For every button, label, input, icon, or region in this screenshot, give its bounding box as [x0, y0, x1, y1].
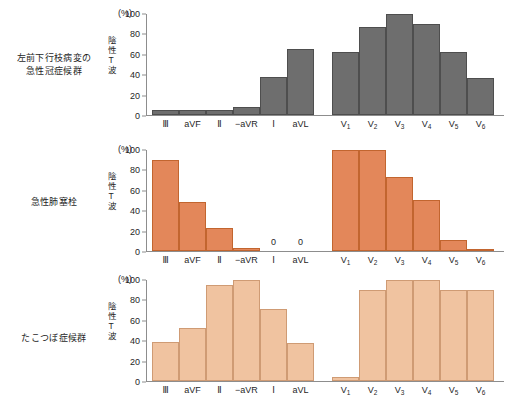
lead-label-main: V: [449, 255, 455, 265]
bar-slot: aVF: [179, 150, 206, 251]
bar-slot: V4: [413, 14, 440, 115]
bar: [152, 342, 179, 381]
lead-label-main: V: [395, 255, 401, 265]
lead-label-sub: 4: [428, 259, 432, 266]
bar-slot: V1: [332, 280, 359, 381]
bar-slot: V3: [386, 280, 413, 381]
lead-label-main: V: [422, 385, 428, 395]
lead-label-sub: 2: [374, 259, 378, 266]
bar-slot: V5: [440, 280, 467, 381]
bar-slot: Ⅰ: [260, 280, 287, 381]
lead-label-main: Ⅱ: [217, 255, 221, 265]
bar: [206, 285, 233, 381]
bar: [233, 248, 260, 251]
bar-slot: Ⅰ: [260, 14, 287, 115]
bar: [359, 290, 386, 381]
lead-label-sub: 6: [482, 259, 486, 266]
bar-value-label: 0: [260, 237, 287, 247]
lead-label-main: Ⅰ: [272, 385, 275, 395]
lead-label-sub: 2: [374, 123, 378, 130]
plot-area: 020406080100ⅢaVFⅡ−aVRⅠaVLV1V2V3V4V5V6: [146, 280, 498, 382]
chart-title-line: 左前下行枝病変の: [6, 52, 102, 65]
y-axis-tick-label: 80: [130, 295, 146, 305]
bar-slot: aVF: [179, 14, 206, 115]
lead-label-sub: 3: [401, 259, 405, 266]
y-axis-title: 陰性T波: [103, 36, 116, 75]
bar-slot: Ⅲ: [152, 150, 179, 251]
bar: [467, 78, 494, 115]
lead-label-main: V: [422, 119, 428, 129]
y-axis-tick-label: 40: [130, 336, 146, 346]
x-axis-tick-label: aVL: [280, 255, 321, 265]
bar-slot: V3: [386, 150, 413, 251]
bar: [179, 328, 206, 381]
bar-slot: 0aVL: [287, 150, 314, 251]
bar-slot: −aVR: [233, 280, 260, 381]
lead-label-sub: 1: [347, 389, 351, 396]
bar: [440, 290, 467, 381]
bar-slot: V2: [359, 280, 386, 381]
chart-title-line: 急性肺塞栓: [6, 196, 102, 209]
lead-label-main: Ⅱ: [217, 385, 221, 395]
bar-slot: V2: [359, 150, 386, 251]
y-axis-tick-label: 40: [130, 70, 146, 80]
y-axis-tick-label: 20: [130, 357, 146, 367]
x-axis-line: [146, 115, 504, 116]
lead-label-main: V: [341, 385, 347, 395]
bar-slot: −aVR: [233, 14, 260, 115]
lead-label-sub: 6: [482, 389, 486, 396]
lead-label-main: Ⅰ: [272, 119, 275, 129]
y-axis-tick-label: 80: [130, 29, 146, 39]
bar: [152, 160, 179, 251]
bar-slot: V4: [413, 150, 440, 251]
bar-slot: Ⅱ: [206, 150, 233, 251]
y-axis-tick-label: 100: [125, 275, 146, 285]
bar-group: ⅢaVFⅡ−aVRⅠaVLV1V2V3V4V5V6: [146, 14, 498, 115]
bar: [386, 280, 413, 381]
y-axis-tick-label: 80: [130, 165, 146, 175]
bar-slot: V6: [467, 14, 494, 115]
bar-slot: V5: [440, 14, 467, 115]
y-axis-tick-label: 20: [130, 227, 146, 237]
bar: [287, 343, 314, 381]
x-axis-tick-label: V6: [460, 385, 501, 395]
bar-group: ⅢaVFⅡ−aVRⅠaVLV1V2V3V4V5V6: [146, 280, 498, 381]
lead-label-main: V: [449, 385, 455, 395]
lead-label-sub: 4: [428, 123, 432, 130]
lead-label-main: V: [368, 385, 374, 395]
bar: [332, 150, 359, 251]
bar-group: ⅢaVFⅡ−aVR0Ⅰ0aVLV1V2V3V4V5V6: [146, 150, 498, 251]
lead-label-main: Ⅰ: [272, 255, 275, 265]
lead-label-main: V: [395, 119, 401, 129]
y-axis-tick-label: 20: [130, 91, 146, 101]
lead-label-main: Ⅱ: [217, 119, 221, 129]
x-axis-tick-label: V6: [460, 255, 501, 265]
bar-slot: 0Ⅰ: [260, 150, 287, 251]
bar: [359, 27, 386, 115]
lead-label-main: aVL: [292, 385, 308, 395]
bar-slot: aVF: [179, 280, 206, 381]
bar: [260, 77, 287, 115]
x-axis-tick-label: aVL: [280, 119, 321, 129]
bar: [359, 150, 386, 251]
y-axis-title: 陰性T波: [103, 302, 116, 341]
bar: [440, 240, 467, 251]
lead-label-main: V: [476, 385, 482, 395]
bar-slot: −aVR: [233, 150, 260, 251]
lead-label-sub: 5: [455, 389, 459, 396]
bar: [467, 290, 494, 381]
y-axis-tick-label: 100: [125, 9, 146, 19]
bar-slot: V5: [440, 150, 467, 251]
bar-slot: aVL: [287, 280, 314, 381]
y-axis-tick-label: 40: [130, 206, 146, 216]
chart-panel: 急性肺塞栓陰性T波(%)020406080100ⅢaVFⅡ−aVR0Ⅰ0aVLV…: [0, 136, 517, 264]
lead-label-main: V: [395, 385, 401, 395]
chart-title: 急性肺塞栓: [6, 196, 102, 209]
bar: [413, 200, 440, 251]
lead-label-main: V: [422, 255, 428, 265]
chart-title-line: 急性冠症候群: [6, 65, 102, 78]
lead-label-main: aVL: [292, 255, 308, 265]
bar-slot: Ⅱ: [206, 280, 233, 381]
lead-label-main: Ⅲ: [162, 255, 168, 265]
x-axis-tick-label: V6: [460, 119, 501, 129]
